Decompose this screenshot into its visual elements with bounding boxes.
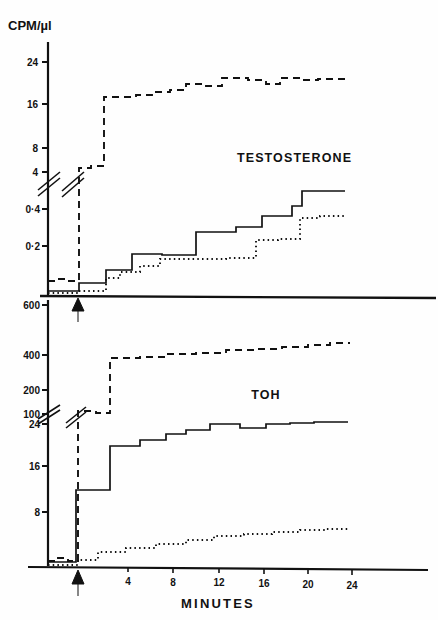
bottom-panel-trace-break-icon [66,407,86,428]
xtick-16: 16 [258,578,270,589]
top-ytick-24: 24 [27,57,39,68]
top-solid-trace [48,191,345,291]
y-axis-title: CPM/µl [8,18,52,33]
scientific-figure: 24 16 8 4 0·4 0·2 [0,0,438,620]
testosterone-panel-title: TESTOSTERONE [237,151,352,165]
top-panel-baseline [40,296,436,298]
top-ytick-8: 8 [32,143,38,154]
toh-panel-title: TOH [251,388,280,402]
bottom-ytick-200: 200 [23,385,40,396]
top-ytick-4: 4 [32,167,38,178]
bottom-panel-injection-arrow [72,570,84,596]
xtick-12: 12 [213,577,225,588]
bottom-dotted-trace [48,529,348,565]
xtick-20: 20 [302,579,314,590]
bottom-ytick-16: 16 [29,461,41,472]
xtick-8: 8 [170,577,176,588]
top-panel-trace-break-icon [62,172,84,197]
top-ytick-0-4: 0·4 [26,204,41,215]
bottom-ytick-400: 400 [23,350,40,361]
top-ytick-0-2: 0·2 [26,241,41,252]
bottom-panel-x-axis [28,567,428,570]
top-panel-injection-arrow [72,298,84,322]
toh-panel: 600 400 200 100 24 16 8 [23,300,428,596]
bottom-ytick-8: 8 [34,507,40,518]
x-axis-title: MINUTES [181,596,255,611]
bottom-dashed-trace [48,343,350,561]
xtick-24: 24 [346,580,358,591]
top-ytick-16: 16 [27,99,39,110]
bottom-solid-trace [48,422,348,562]
xtick-4: 4 [125,576,131,587]
bottom-ytick-600: 600 [23,300,40,311]
figure-container: 24 16 8 4 0·4 0·2 [0,0,438,620]
testosterone-panel: 24 16 8 4 0·4 0·2 [26,42,436,322]
